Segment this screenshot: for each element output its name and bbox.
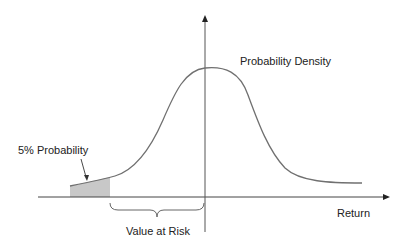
var-diagram: Probability Density 5% Probability Value… [0,0,404,250]
tail-pointer-line [81,159,86,177]
x-axis-label: Return [337,208,370,219]
value-at-risk-label: Value at Risk [126,226,190,237]
probability-density-curve [70,68,362,186]
tail-probability-label: 5% Probability [18,145,88,156]
value-at-risk-brace [110,203,204,217]
density-label: Probability Density [240,56,331,67]
y-axis-arrow-icon [202,15,208,22]
x-axis-arrow-icon [383,194,390,200]
tail-shaded-region [70,177,110,197]
tail-pointer-arrow-icon [84,175,89,181]
